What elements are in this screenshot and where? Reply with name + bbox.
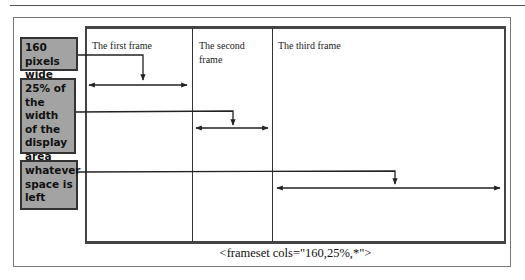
connector-3 [78,171,500,188]
connector-lines [0,0,525,280]
connector-2 [76,111,268,128]
connector-1 [78,55,187,85]
frameset-code-caption: <frameset cols="160,25%,*"> [85,244,506,262]
